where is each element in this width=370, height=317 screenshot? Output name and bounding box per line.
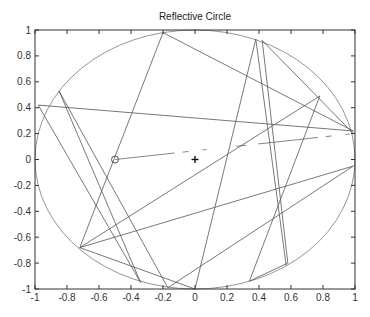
x-tick-label: 0 [192,292,198,303]
x-tick-label: 1 [352,292,358,303]
y-tick-label: -1 [22,284,31,295]
y-tick-label: -0.6 [14,232,32,243]
x-tick-label: 0.6 [284,292,298,303]
x-tick-label: -0.6 [90,292,108,303]
x-tick-label: 0.4 [252,292,266,303]
x-tick-label: -1 [31,292,40,303]
chart-title: Reflective Circle [35,11,355,22]
y-tick-label: 0.2 [17,128,31,139]
plot-area: -1-0.8-0.6-0.4-0.200.20.40.60.8110.80.60… [0,0,370,317]
x-tick-label: 0.2 [220,292,234,303]
y-tick-label: 0.4 [17,102,31,113]
series-layer [35,30,355,289]
path-first-segment [115,134,353,160]
x-tick-label: -0.8 [58,292,76,303]
y-tick-label: -0.8 [14,258,32,269]
y-tick-label: 0.6 [17,76,31,87]
x-tick-label: -0.4 [122,292,140,303]
y-tick-label: 1 [25,25,31,36]
reflection-path [38,33,353,289]
x-tick-label: 0.8 [316,292,330,303]
y-tick-label: -0.4 [14,206,32,217]
y-tick-label: 0.8 [17,50,31,61]
center-plus-icon [192,156,199,163]
x-tick-label: -0.2 [154,292,172,303]
figure: Reflective Circle -1-0.8-0.6-0.4-0.200.2… [0,0,370,317]
y-tick-label: 0 [25,154,31,165]
y-tick-label: -0.2 [14,180,32,191]
